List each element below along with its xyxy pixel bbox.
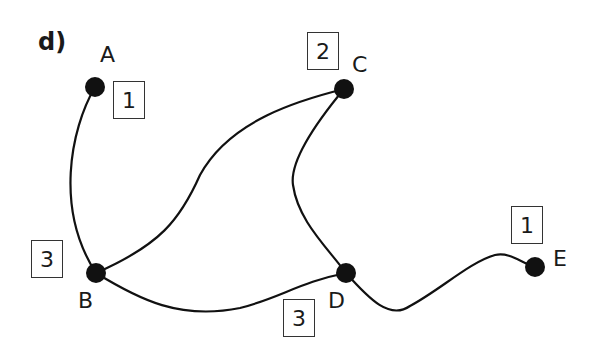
node-label-b: B [78,290,93,312]
node-a [85,77,105,97]
degree-box-a: 1 [113,81,145,119]
edge-c-d [293,89,346,273]
node-c [334,79,354,99]
node-label-a: A [100,44,115,66]
node-b [86,263,106,283]
degree-box-c: 2 [307,32,339,70]
degree-box-b: 3 [31,240,63,278]
node-e [525,257,545,277]
figure-label: d) [38,30,66,54]
degree-box-e: 1 [511,206,543,244]
node-label-d: D [328,290,345,312]
node-label-e: E [553,248,567,270]
node-label-c: C [352,54,367,76]
edge-a-b [70,87,96,273]
node-d [336,263,356,283]
edge-d-e [346,254,535,310]
degree-box-d: 3 [283,299,315,337]
